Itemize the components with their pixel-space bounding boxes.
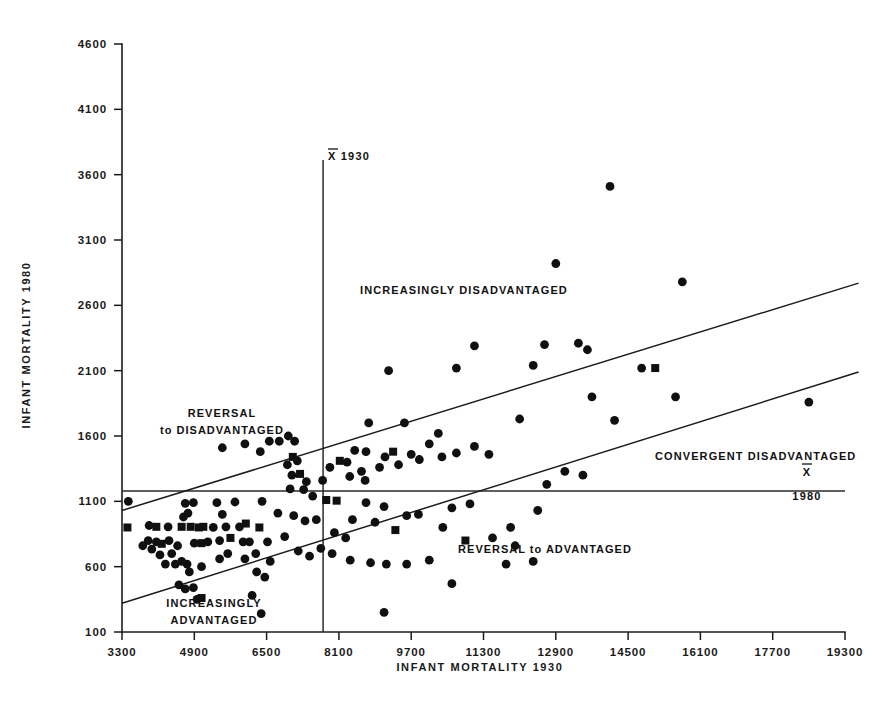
scatter-plot-figure: 46004100360031002600210016001100600100 3…: [0, 0, 896, 704]
x-axis-tick-label: 11300: [466, 646, 502, 658]
data-point-circle: [293, 456, 302, 465]
region-label-increasingly-disadvantaged: INCREASINGLY DISADVANTAGED: [360, 284, 568, 296]
region-label-convergent-disadvantaged: CONVERGENT DISADVANTAGED: [655, 450, 856, 462]
data-point-circle: [294, 547, 303, 556]
data-point-circle: [145, 521, 154, 530]
data-point-circle: [301, 517, 310, 526]
x-axis-tick-labels: 3300490065008100970011300129001450016100…: [107, 646, 863, 658]
data-point-circle: [203, 537, 212, 546]
data-point-square: [391, 526, 399, 534]
data-point-circle: [212, 498, 221, 507]
x-axis-tick-label: 9700: [397, 646, 426, 658]
data-point-circle: [197, 562, 206, 571]
data-point-circle: [382, 560, 391, 569]
data-point-circle: [251, 549, 260, 558]
mean-1980-year: 1980: [792, 490, 821, 502]
data-point-circle: [316, 544, 325, 553]
data-point-circle: [362, 498, 371, 507]
data-point-circle: [804, 398, 813, 407]
data-point-circle: [256, 447, 265, 456]
data-point-circle: [223, 549, 232, 558]
x-axis-tick-label: 4900: [180, 646, 209, 658]
data-point-circle: [288, 471, 297, 480]
data-point-square: [651, 364, 659, 372]
data-point-circle: [167, 549, 176, 558]
mean-1980-label-group: X 1980: [792, 464, 821, 502]
data-point-circle: [402, 511, 411, 520]
x-axis-tick-label: 14500: [610, 646, 646, 658]
data-point-circle: [533, 506, 542, 515]
data-point-circle: [470, 442, 479, 451]
x-axis-tick-label: 6500: [252, 646, 281, 658]
data-point-circle: [328, 549, 337, 558]
data-point-circle: [366, 558, 375, 567]
y-axis-tick-labels: 46004100360031002600210016001100600100: [78, 38, 107, 638]
scatter-plot-svg: 46004100360031002600210016001100600100 3…: [0, 0, 896, 704]
data-point-circle: [438, 453, 447, 462]
mean-1980-symbol: X: [803, 466, 812, 478]
data-point-circle: [540, 340, 549, 349]
y-axis-tick-label: 4100: [78, 103, 107, 115]
data-point-circle: [290, 437, 299, 446]
data-point-circle: [189, 498, 198, 507]
data-point-circle: [380, 608, 389, 617]
data-point-square: [199, 523, 207, 531]
y-axis-ticks: [114, 44, 122, 632]
data-point-square: [187, 523, 195, 531]
data-point-square: [178, 523, 186, 531]
data-point-circle: [215, 554, 224, 563]
data-point-square: [333, 497, 341, 505]
data-point-circle: [305, 552, 314, 561]
data-point-circle: [222, 522, 231, 531]
data-point-circle: [190, 539, 199, 548]
data-point-circle: [325, 463, 334, 472]
data-point-circle: [181, 499, 190, 508]
y-axis-tick-label: 1100: [78, 495, 107, 507]
data-point-circle: [245, 537, 254, 546]
data-point-circle: [583, 345, 592, 354]
data-point-circle: [345, 472, 354, 481]
data-point-circle: [252, 567, 261, 576]
data-point-circle: [209, 523, 218, 532]
x-axis-tick-label: 12900: [538, 646, 574, 658]
data-point-circle: [263, 537, 272, 546]
data-point-circle: [343, 458, 352, 467]
data-point-circle: [280, 532, 289, 541]
data-point-square: [242, 520, 250, 528]
data-point-circle: [574, 339, 583, 348]
data-point-circle: [364, 419, 373, 428]
data-point-circle: [529, 557, 538, 566]
axis-group: 46004100360031002600210016001100600100 3…: [78, 38, 863, 658]
data-point-circle: [637, 364, 646, 373]
data-point-circle: [330, 528, 339, 537]
region-label-increasingly-advantaged-line1: INCREASINGLY: [166, 597, 261, 609]
data-point-square: [226, 534, 234, 542]
data-point-square: [389, 448, 397, 456]
mean-1930-label-group: X 1930: [328, 149, 370, 162]
data-point-circle: [425, 556, 434, 565]
data-point-circle: [357, 467, 366, 476]
data-point-circle: [588, 392, 597, 401]
x-axis-tick-label: 19300: [827, 646, 863, 658]
data-point-circle: [434, 429, 443, 438]
data-point-circle: [165, 536, 174, 545]
data-point-circle: [241, 439, 250, 448]
data-point-circle: [375, 463, 384, 472]
data-point-circle: [425, 439, 434, 448]
data-point-circle: [286, 485, 295, 494]
data-point-circle: [218, 443, 227, 452]
data-point-square: [158, 540, 166, 548]
data-point-circle: [485, 450, 494, 459]
data-point-circle: [438, 523, 447, 532]
y-axis-tick-label: 2600: [78, 299, 107, 311]
data-point-circle: [346, 556, 355, 565]
data-point-circle: [407, 450, 416, 459]
data-point-circle: [273, 509, 282, 518]
x-axis-ticks: [122, 632, 845, 640]
data-point-circle: [215, 536, 224, 545]
data-point-circle: [380, 502, 389, 511]
data-point-circle: [371, 518, 380, 527]
data-point-circle: [400, 419, 409, 428]
data-point-circle: [156, 551, 165, 560]
data-point-circle: [452, 449, 461, 458]
